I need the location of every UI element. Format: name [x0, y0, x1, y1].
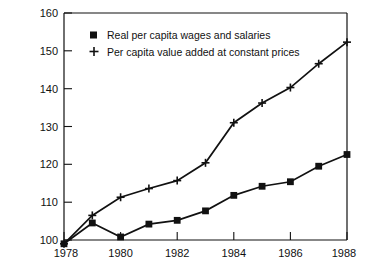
data-point-marker: [89, 220, 96, 227]
data-point-marker: [146, 221, 153, 228]
line-chart: 160 150 140 130 120 110 100 1978 1980 19…: [0, 0, 367, 274]
data-point-marker: [230, 192, 237, 199]
chart-legend: Real per capita wages and salaries Per c…: [90, 29, 300, 58]
data-point-marker: [259, 183, 266, 190]
x-tick-label: 1978: [54, 247, 78, 259]
data-point-marker: [344, 151, 351, 158]
x-tick-label: 1980: [108, 247, 132, 259]
y-tick-label: 110: [40, 196, 58, 208]
data-point-marker: [145, 185, 153, 193]
legend-marker-filled-square-icon: [90, 32, 97, 39]
series-line-1: [64, 155, 347, 244]
data-point-marker: [173, 177, 181, 185]
x-tick-labels: 1978 1980 1982 1984 1986 1988: [54, 247, 356, 259]
x-tick-label: 1988: [332, 247, 356, 259]
x-tick-label: 1986: [278, 247, 302, 259]
data-point-marker: [117, 234, 124, 241]
x-tick-label: 1984: [222, 247, 246, 259]
data-point-marker: [174, 217, 181, 224]
series-2: [60, 38, 351, 248]
legend-marker-plus-icon: [90, 47, 99, 56]
chart-page: Indices 1978 = 100 160 150 140 130 120 1…: [0, 0, 367, 274]
y-tick-label: 120: [40, 158, 58, 170]
y-tick-marks: [64, 13, 72, 240]
legend-label-series-2: Per capita value added at constant price…: [107, 46, 300, 58]
x-tick-marks: [64, 232, 347, 240]
x-tick-label: 1982: [165, 247, 189, 259]
y-tick-label: 160: [40, 7, 58, 19]
y-tick-label: 150: [40, 45, 58, 57]
data-point-marker: [315, 163, 322, 170]
series-layer: [60, 38, 351, 248]
y-tick-label: 100: [40, 234, 58, 246]
y-tick-label: 130: [40, 121, 58, 133]
y-tick-label: 140: [40, 83, 58, 95]
y-tick-labels: 160 150 140 130 120 110 100: [40, 7, 58, 246]
data-point-marker: [202, 207, 209, 214]
data-point-marker: [287, 178, 294, 185]
legend-label-series-1: Real per capita wages and salaries: [107, 29, 270, 41]
